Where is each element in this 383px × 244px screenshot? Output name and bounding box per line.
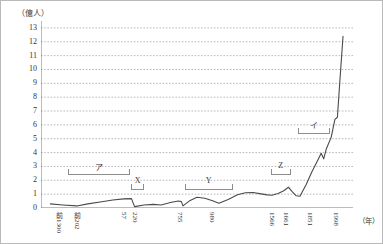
gridlines (41, 28, 353, 208)
chart-figure: （億人） （年） 012345678910111213 前1300前202572… (0, 0, 383, 244)
population-line-chart (41, 21, 353, 208)
plot-area (41, 21, 353, 208)
population-line-series (50, 36, 343, 206)
